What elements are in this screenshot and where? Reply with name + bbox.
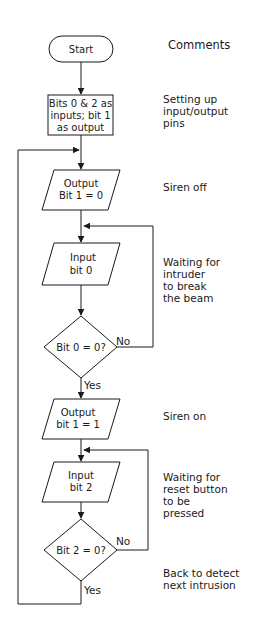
siren-off-label-line1: Output: [64, 178, 99, 189]
comment-wait-reset: Waiting for reset button to be pressed: [163, 471, 228, 519]
input-bit2-label-line1: Input: [68, 470, 94, 481]
edge-label-bit2-no: No: [116, 535, 130, 547]
comment-setup: Setting up input/output pins: [163, 93, 228, 129]
decision-bit2-label: Bit 2 = 0?: [56, 545, 106, 556]
comment-back: Back to detect next intrusion: [163, 567, 239, 591]
input-bit0-label-line2: bit 0: [70, 265, 93, 276]
edge-label-bit0-yes: Yes: [83, 379, 101, 391]
setup-label-line3: as output: [57, 122, 105, 133]
comments-header: Comments: [168, 39, 230, 51]
siren-on-label-line1: Output: [61, 407, 96, 418]
decision-bit0-label: Bit 0 = 0?: [56, 342, 106, 353]
siren-off-label-line2: Bit 1 = 0: [59, 190, 103, 201]
edge-label-bit0-no: No: [116, 335, 130, 347]
comment-wait-intruder: Waiting for intruder to break the beam: [163, 256, 220, 304]
start-label: Start: [69, 44, 94, 55]
siren-on-label-line2: bit 1 = 1: [56, 419, 100, 430]
edge-label-bit2-yes: Yes: [83, 584, 101, 596]
input-bit0-io: [42, 243, 120, 285]
input-bit2-label-line2: bit 2: [70, 482, 93, 493]
comment-siren-on: Siren on: [163, 410, 206, 422]
setup-label-line1: Bits 0 & 2 as: [49, 98, 112, 109]
setup-label-line2: inputs; bit 1: [50, 110, 110, 121]
input-bit0-label-line1: Input: [70, 252, 96, 263]
comment-siren-off: Siren off: [163, 181, 207, 193]
